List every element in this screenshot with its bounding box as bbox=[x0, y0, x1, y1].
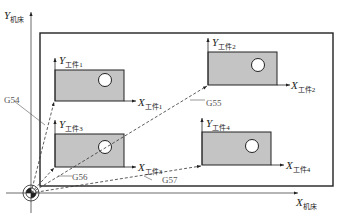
wp1-x-label: X工件1 bbox=[137, 96, 163, 111]
g56-label: G56 bbox=[72, 172, 88, 182]
machine-x-label: X机床 bbox=[295, 196, 317, 211]
g54-vector bbox=[31, 102, 54, 193]
g55-label: G55 bbox=[206, 98, 222, 108]
hole-icon bbox=[246, 140, 259, 153]
wp1-y-label: Y工件1 bbox=[59, 54, 83, 69]
wp3-x-label: X工件3 bbox=[137, 161, 163, 176]
wp4-y-label: Y工件4 bbox=[206, 117, 230, 132]
wp2-x-label: X工件2 bbox=[290, 79, 316, 94]
wp3-y-label: Y工件3 bbox=[59, 118, 83, 133]
wp2-y-label: Y工件2 bbox=[212, 36, 236, 51]
hole-icon bbox=[99, 74, 112, 87]
hole-icon bbox=[252, 59, 265, 72]
g54-label: G54 bbox=[4, 95, 20, 105]
machine-y-label: Y机床 bbox=[4, 9, 24, 24]
coordinate-diagram: Y机床 X机床 Y工件1 X工件1 Y工件2 X工件2 Y工件3 X工件3 Y工… bbox=[0, 0, 344, 216]
wp4-x-label: X工件4 bbox=[285, 159, 311, 174]
hole-icon bbox=[99, 141, 112, 154]
g57-label: G57 bbox=[162, 175, 178, 185]
